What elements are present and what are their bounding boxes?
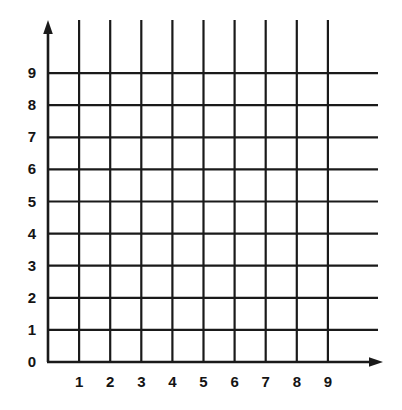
y-axis-tick-label: 6 (14, 161, 36, 176)
figure-background (0, 0, 402, 410)
y-axis-tick-label: 5 (14, 194, 36, 209)
y-axis-tick-label: 1 (14, 322, 36, 337)
x-axis-tick-label: 7 (255, 374, 277, 389)
y-axis-tick-label: 9 (14, 65, 36, 80)
x-axis-tick-label: 4 (161, 374, 183, 389)
x-axis-tick-label: 3 (130, 374, 152, 389)
x-axis-tick-label: 5 (193, 374, 215, 389)
y-axis-tick-label: 0 (14, 354, 36, 369)
x-axis-tick-label: 9 (317, 374, 339, 389)
x-axis-tick-label: 8 (286, 374, 308, 389)
y-axis-tick-label: 2 (14, 290, 36, 305)
coordinate-grid-figure: 0123456789 123456789 (0, 0, 402, 410)
x-axis-tick-label: 2 (99, 374, 121, 389)
y-axis-tick-label: 8 (14, 97, 36, 112)
y-axis-tick-label: 4 (14, 226, 36, 241)
x-axis-tick-label: 6 (224, 374, 246, 389)
y-axis-tick-label: 3 (14, 258, 36, 273)
grid-svg (0, 0, 402, 410)
y-axis-tick-label: 7 (14, 129, 36, 144)
x-axis-tick-label: 1 (68, 374, 90, 389)
